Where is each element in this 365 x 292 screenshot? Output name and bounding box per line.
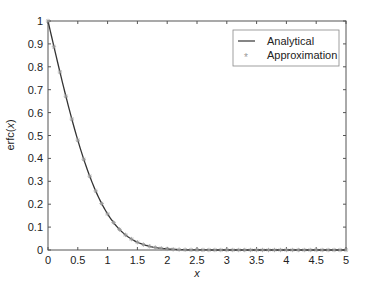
asterisk-marker (320, 248, 324, 252)
legend: Analytical * Approximation (233, 30, 339, 66)
x-axis-label: x (193, 267, 200, 279)
x-tick-label: 4.5 (309, 254, 324, 266)
asterisk-marker (266, 248, 270, 252)
asterisk-marker (141, 242, 145, 246)
asterisk-marker (105, 212, 109, 216)
asterisk-marker (332, 248, 336, 252)
asterisk-marker (284, 248, 288, 252)
x-tick-label: 1 (105, 254, 111, 266)
asterisk-marker (290, 248, 294, 252)
asterisk-marker (308, 248, 312, 252)
asterisk-marker (64, 94, 68, 98)
asterisk-marker (93, 189, 97, 193)
asterisk-marker (70, 117, 74, 121)
asterisk-marker (123, 233, 127, 237)
asterisk-marker (111, 220, 115, 224)
asterisk-marker (195, 248, 199, 252)
asterisk-marker (242, 248, 246, 252)
asterisk-marker (338, 248, 342, 252)
asterisk-marker (272, 248, 276, 252)
asterisk-marker (344, 248, 348, 252)
x-tick-label: 5 (343, 254, 349, 266)
y-tick-label: 0.8 (28, 61, 43, 73)
x-tick-labels: 00.511.522.533.544.55 (45, 254, 349, 266)
y-tick-label: 0.2 (28, 198, 43, 210)
asterisk-marker (46, 19, 50, 23)
asterisk-marker (296, 248, 300, 252)
asterisk-marker (159, 246, 163, 250)
asterisk-marker (189, 248, 193, 252)
y-tick-label: 0.4 (28, 152, 43, 164)
asterisk-marker (82, 157, 86, 161)
asterisk-marker (165, 247, 169, 251)
y-tick-label: 1 (37, 15, 43, 27)
asterisk-marker (201, 248, 205, 252)
asterisk-marker (326, 248, 330, 252)
legend-label-analytical: Analytical (267, 35, 314, 47)
asterisk-marker (219, 248, 223, 252)
y-tick-label: 0.7 (28, 84, 43, 96)
asterisk-marker (183, 248, 187, 252)
asterisk-marker (248, 248, 252, 252)
asterisk-marker (58, 70, 62, 74)
asterisk-marker (76, 138, 80, 142)
erfc-chart: 00.511.522.533.544.55 00.10.20.30.40.50.… (0, 0, 365, 292)
y-tick-label: 0.9 (28, 38, 43, 50)
y-tick-label: 0.6 (28, 107, 43, 119)
legend-label-approximation: Approximation (267, 49, 337, 61)
asterisk-marker (260, 248, 264, 252)
asterisk-marker (88, 174, 92, 178)
y-tick-label: 0.5 (28, 130, 43, 142)
asterisk-marker (314, 248, 318, 252)
asterisk-marker (117, 227, 121, 231)
y-axis-label: erfc(x) (4, 119, 16, 150)
x-tick-label: 3 (224, 254, 230, 266)
asterisk-marker (129, 237, 133, 241)
asterisk-marker (207, 248, 211, 252)
x-tick-label: 2.5 (189, 254, 204, 266)
asterisk-marker (225, 248, 229, 252)
y-tick-label: 0.3 (28, 175, 43, 187)
asterisk-marker (302, 248, 306, 252)
asterisk-marker (135, 240, 139, 244)
x-tick-label: 0 (45, 254, 51, 266)
asterisk-marker (278, 248, 282, 252)
asterisk-marker (99, 201, 103, 205)
asterisk-marker (254, 248, 258, 252)
asterisk-marker (52, 45, 56, 49)
asterisk-marker (147, 244, 151, 248)
y-tick-label: 0 (37, 244, 43, 256)
asterisk-marker (171, 247, 175, 251)
asterisk-marker (231, 248, 235, 252)
x-tick-label: 1.5 (130, 254, 145, 266)
x-tick-label: 4 (283, 254, 289, 266)
y-tick-label: 0.1 (28, 221, 43, 233)
x-tick-label: 0.5 (70, 254, 85, 266)
asterisk-marker (153, 245, 157, 249)
y-tick-labels: 00.10.20.30.40.50.60.70.80.91 (28, 15, 43, 256)
x-tick-label: 2 (164, 254, 170, 266)
x-tick-label: 3.5 (249, 254, 264, 266)
asterisk-marker (177, 247, 181, 251)
asterisk-marker (213, 248, 217, 252)
legend-asterisk-icon: * (244, 52, 248, 63)
asterisk-marker (237, 248, 241, 252)
